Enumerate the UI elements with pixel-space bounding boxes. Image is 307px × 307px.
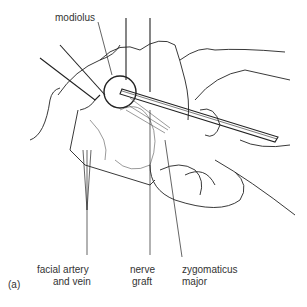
surgical-illustration [0,0,307,307]
panel-label: (a) [8,279,20,290]
label-nerve-graft-line1: nerve [130,264,155,275]
label-zygomaticus-line2: major [182,276,207,287]
label-facial-artery-line1: facial artery [37,264,89,275]
label-facial-artery-line2: and vein [53,276,91,287]
label-nerve-graft-line2: graft [132,276,152,287]
label-zygomaticus-line1: zygomaticus [182,264,238,275]
label-modiolus: modiolus [55,12,95,23]
